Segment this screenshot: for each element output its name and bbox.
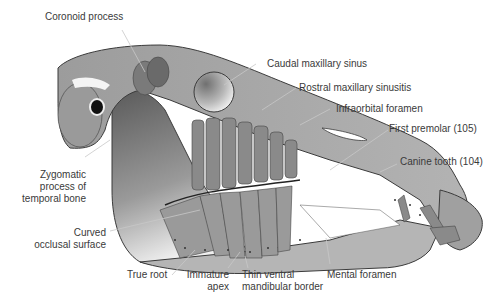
- caudal-maxillary-sinus-shape: [194, 72, 234, 112]
- label-true-root: True root: [127, 269, 167, 281]
- label-zygomatic-process: Zygomatic process of temporal bone: [14, 169, 86, 205]
- coronoid-shape-2: [147, 57, 169, 87]
- label-immature-apex: Immature apex: [180, 269, 229, 293]
- label-caudal-maxillary-sinus: Caudal maxillary sinus: [267, 58, 367, 70]
- label-curved-occlusal-surface: Curved occlusal surface: [22, 227, 106, 251]
- ear-canal: [90, 99, 104, 115]
- label-canine-tooth: Canine tooth (104): [400, 156, 483, 168]
- skull-illustration: [0, 0, 499, 304]
- skull-diagram: Coronoid process Caudal maxillary sinus …: [0, 0, 499, 304]
- label-rostral-maxillary-sinusitis: Rostral maxillary sinusitis: [299, 82, 411, 94]
- label-infraorbital-foramen: Infraorbital foramen: [336, 103, 423, 115]
- label-mental-foramen: Mental foramen: [327, 269, 396, 281]
- label-thin-ventral-mandibular-border: Thin ventral mandibular border: [242, 269, 323, 293]
- label-first-premolar: First premolar (105): [389, 123, 477, 135]
- label-coronoid-process: Coronoid process: [45, 11, 123, 23]
